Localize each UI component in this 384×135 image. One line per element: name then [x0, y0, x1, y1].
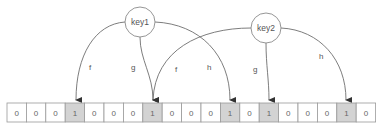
edge-key2-h	[281, 28, 346, 100]
bit-cell: 0	[104, 103, 123, 122]
edges	[76, 22, 346, 100]
bit-cell: 1	[143, 103, 162, 122]
bit-cell-value: 0	[189, 109, 194, 118]
bit-cell-value: 0	[92, 109, 97, 118]
bit-cell: 0	[162, 103, 181, 122]
bit-cell-value: 0	[131, 109, 136, 118]
bit-cell-value: 0	[34, 109, 39, 118]
bit-cell: 0	[279, 103, 298, 122]
bit-cell: 1	[65, 103, 84, 122]
bit-cell-value: 0	[364, 109, 369, 118]
bit-cell-value: 0	[14, 109, 19, 118]
bit-array: 0001000100010100010	[7, 103, 376, 122]
bit-cell: 0	[317, 103, 336, 122]
edge-key2-g	[266, 43, 269, 100]
bit-cell-value: 0	[325, 109, 330, 118]
bit-cell-value: 0	[53, 109, 58, 118]
bit-cell: 0	[356, 103, 375, 122]
key1-label: key1	[131, 17, 149, 27]
bit-cell: 0	[240, 103, 259, 122]
bit-cell: 0	[298, 103, 317, 122]
edge-key1-f	[76, 22, 125, 100]
bit-cell-value: 0	[305, 109, 310, 118]
bit-cell-value: 0	[111, 109, 116, 118]
key2-label: key2	[257, 23, 275, 33]
bit-cell-value: 1	[73, 109, 78, 118]
edge-labels: f g h f g h	[89, 52, 323, 74]
bit-cell: 0	[201, 103, 220, 122]
bit-cell-value: 1	[344, 109, 349, 118]
edge-label-key2-f: f	[175, 65, 178, 74]
edge-key1-g	[140, 37, 153, 100]
bit-cell-value: 1	[267, 109, 272, 118]
key-node-key2: key2	[251, 13, 281, 43]
bit-cell: 1	[259, 103, 278, 122]
edge-key2-f	[153, 28, 251, 100]
bit-cell: 0	[123, 103, 142, 122]
bit-cell-value: 0	[247, 109, 252, 118]
bit-cell-value: 0	[286, 109, 291, 118]
bit-cell-value: 0	[170, 109, 175, 118]
edge-label-key1-h: h	[207, 63, 211, 72]
bit-cell: 0	[7, 103, 26, 122]
key-node-key1: key1	[125, 7, 155, 37]
bit-cell-value: 1	[228, 109, 233, 118]
bit-cell-value: 0	[208, 109, 213, 118]
bloom-filter-diagram: f g h f g h key1 key2 000100010001010001…	[0, 0, 384, 135]
bit-cell: 0	[46, 103, 65, 122]
edge-label-key2-g: g	[253, 65, 257, 74]
edge-label-key1-f: f	[89, 63, 92, 72]
bit-cell-value: 1	[150, 109, 155, 118]
bit-cell: 0	[26, 103, 45, 122]
bit-cell: 1	[337, 103, 356, 122]
edge-label-key1-g: g	[131, 63, 135, 72]
bit-cell: 0	[182, 103, 201, 122]
edge-label-key2-h: h	[319, 52, 323, 61]
bit-cell: 1	[220, 103, 239, 122]
bit-cell: 0	[85, 103, 104, 122]
